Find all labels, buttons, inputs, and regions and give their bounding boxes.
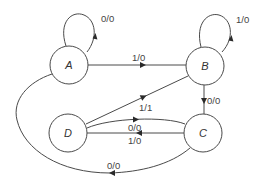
transition-d-to-b: 1/1 [86,76,188,124]
label-b-to-c: 0/0 [207,95,220,106]
state-c: C [184,114,222,152]
state-a-label: A [64,59,72,71]
state-c-label: C [199,127,207,139]
state-d: D [49,114,87,152]
label-d-to-c: 0/0 [128,122,141,133]
state-b-label: B [201,60,208,72]
arrowhead-icon [93,33,99,40]
label-c-to-d: 1/0 [128,135,141,146]
label-a-to-a: 0/0 [101,13,114,24]
label-d-to-b: 1/1 [139,102,152,113]
state-diagram: 0/0 1/0 1/0 0/0 1/1 [0,0,262,186]
transition-b-to-b: 1/0 [199,14,249,52]
arrowhead-icon [140,93,148,101]
state-diagram-canvas: 0/0 1/0 1/0 0/0 1/1 [0,0,262,186]
state-a: A [50,46,88,84]
state-b: B [186,47,224,85]
label-c-to-a: 0/0 [107,160,120,171]
transition-c-to-a: 0/0 [16,74,190,176]
label-b-to-b: 1/0 [236,14,249,25]
self-loop-b-edge [199,15,230,52]
transition-d-to-c: 0/0 [87,117,185,134]
label-a-to-b: 1/0 [132,52,145,63]
transition-a-to-b: 1/0 [88,52,186,68]
state-d-label: D [64,127,72,139]
edge-d-to-b [86,76,188,124]
transition-b-to-c: 0/0 [201,85,220,114]
